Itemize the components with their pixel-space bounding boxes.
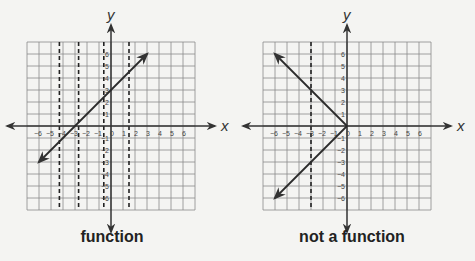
y-tick-label: −6	[101, 195, 109, 202]
right-caption: not a function	[282, 228, 422, 246]
graphs-canvas: xy−6−5−4−3−2−10123456−6−5−4−3−2−1123456x…	[0, 0, 475, 261]
x-tick-label: −6	[270, 130, 278, 137]
x-tick-label: 6	[418, 130, 422, 137]
y-tick-label: 5	[105, 63, 109, 70]
y-tick-label: 2	[341, 99, 345, 106]
y-tick-label: −4	[101, 171, 109, 178]
left-caption: function	[62, 228, 162, 246]
x-axis-label: x	[456, 117, 465, 134]
x-tick-label: 4	[158, 130, 162, 137]
y-tick-label: −2	[101, 147, 109, 154]
x-tick-label: −3	[306, 130, 314, 137]
y-tick-label: 5	[341, 63, 345, 70]
y-tick-label: 1	[105, 111, 109, 118]
y-tick-label: −1	[337, 135, 345, 142]
x-tick-label: 2	[370, 130, 374, 137]
y-tick-label: 4	[341, 75, 345, 82]
x-tick-label: −2	[82, 130, 90, 137]
x-tick-label: 0	[110, 130, 114, 137]
x-tick-label: 3	[382, 130, 386, 137]
y-axis-label: y	[342, 6, 352, 23]
x-tick-label: −2	[318, 130, 326, 137]
x-tick-label: 2	[134, 130, 138, 137]
graph-line	[39, 54, 147, 162]
x-tick-label: 4	[394, 130, 398, 137]
left-graph: xy−6−5−4−3−2−10123456−6−5−4−3−2−1123456	[7, 6, 229, 232]
x-tick-label: 3	[146, 130, 150, 137]
y-tick-label: −2	[337, 147, 345, 154]
y-tick-label: −5	[101, 183, 109, 190]
y-tick-label: −4	[337, 171, 345, 178]
x-tick-label: 0	[346, 130, 350, 137]
y-tick-label: −3	[337, 159, 345, 166]
y-tick-label: 6	[105, 51, 109, 58]
x-tick-label: −6	[34, 130, 42, 137]
y-tick-label: 2	[105, 99, 109, 106]
x-tick-label: 1	[358, 130, 362, 137]
y-axis-label: y	[106, 6, 116, 23]
x-tick-label: −5	[282, 130, 290, 137]
y-tick-label: 1	[341, 111, 345, 118]
x-tick-label: −5	[46, 130, 54, 137]
y-tick-label: −1	[101, 135, 109, 142]
y-tick-label: −5	[337, 183, 345, 190]
x-tick-label: 1	[122, 130, 126, 137]
y-tick-label: 6	[341, 51, 345, 58]
x-tick-label: 6	[182, 130, 186, 137]
x-tick-label: 5	[170, 130, 174, 137]
y-tick-label: −6	[337, 195, 345, 202]
y-tick-label: −3	[101, 159, 109, 166]
y-tick-label: 4	[105, 75, 109, 82]
x-tick-label: −4	[294, 130, 302, 137]
y-tick-label: 3	[341, 87, 345, 94]
x-tick-label: 5	[406, 130, 410, 137]
right-graph: xy−6−5−4−3−2−10123456−6−5−4−3−2−1123456	[243, 6, 465, 232]
x-axis-label: x	[220, 117, 229, 134]
